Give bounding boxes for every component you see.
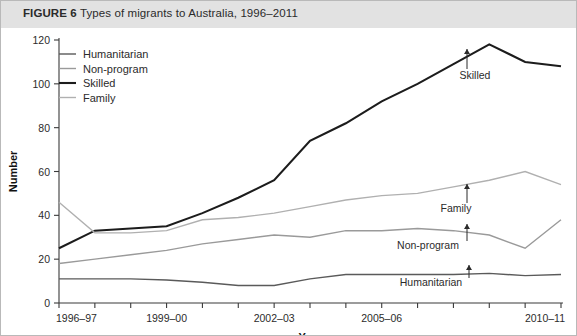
y-axis-tick-label: 100 (32, 78, 50, 90)
y-axis-tick-label: 0 (44, 297, 50, 309)
annotation-label-family: Family (441, 202, 473, 214)
line-chart-svg: 0204060801001201996–971999–002002–032005… (1, 28, 577, 336)
y-axis-tick-label: 40 (38, 209, 50, 221)
annotation-label-skilled: Skilled (460, 69, 491, 81)
y-axis-tick-label: 20 (38, 253, 50, 265)
x-axis-title: Year (298, 331, 322, 336)
x-axis-tick-label: 2005–06 (361, 312, 402, 324)
annotation-group: SkilledFamilyNon-programHumanitarian (397, 49, 491, 288)
y-axis-title: Number (7, 150, 19, 192)
x-axis-tick-label: 2002–03 (254, 312, 295, 324)
figure-container: FIGURE 6 Types of migrants to Australia,… (0, 0, 577, 336)
x-axis-tick-label: 1999–00 (146, 312, 187, 324)
chart-plot-area: 0204060801001201996–971999–002002–032005… (1, 28, 577, 336)
annotation-label-humanitarian: Humanitarian (400, 276, 463, 288)
legend-label: Family (83, 92, 116, 104)
legend-label: Non-program (83, 63, 148, 75)
x-axis-tick-label: 1996–97 (56, 312, 97, 324)
annotation-label-non-program: Non-program (397, 239, 459, 251)
y-axis-tick-label: 80 (38, 122, 50, 134)
figure-title: FIGURE 6 Types of migrants to Australia,… (23, 7, 298, 19)
legend-label: Skilled (83, 77, 115, 89)
series-line-non-program (59, 220, 561, 264)
y-axis-tick-label: 60 (38, 166, 50, 178)
figure-title-text: Types of migrants to Australia, 1996–201… (80, 7, 298, 19)
series-line-humanitarian (59, 273, 561, 285)
legend-label: Humanitarian (83, 48, 148, 60)
annotation-arrow-head (464, 49, 470, 54)
annotation-arrow-head (464, 224, 470, 229)
annotation-arrow-head (466, 265, 472, 270)
y-axis-tick-label: 120 (32, 34, 50, 46)
figure-number: FIGURE 6 (23, 7, 77, 19)
x-axis-tick-label: 2010–11 (525, 312, 565, 324)
series-line-family (59, 172, 561, 233)
chart-legend: HumanitarianNon-programSkilledFamily (59, 48, 148, 104)
